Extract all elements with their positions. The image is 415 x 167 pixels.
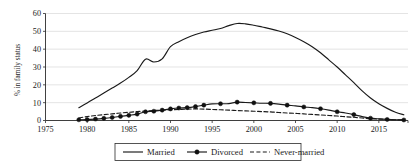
x-tick-label: 2010 <box>329 125 345 134</box>
data-point-marker <box>202 103 206 107</box>
data-point-marker <box>218 102 222 106</box>
y-tick-label: 60 <box>33 9 41 18</box>
data-point-marker <box>118 114 122 118</box>
legend-items: MarriedDivorcedNever-married <box>123 147 325 157</box>
data-point-marker <box>185 106 189 110</box>
y-axis-title: % in family status <box>14 44 22 96</box>
data-point-marker <box>93 117 97 121</box>
data-point-marker <box>77 118 81 122</box>
data-point-marker <box>252 101 256 105</box>
data-point-marker <box>143 110 147 114</box>
y-axis-title-text: % in family status <box>14 44 22 96</box>
data-point-marker <box>402 118 406 122</box>
x-tick-label: 1975 <box>37 125 53 134</box>
legend: MarriedDivorcedNever-married <box>115 144 325 161</box>
married-line <box>79 23 404 114</box>
x-axis <box>46 121 409 124</box>
data-point-marker <box>302 105 306 109</box>
data-point-marker <box>152 109 156 113</box>
y-axis <box>43 14 46 121</box>
legend-marker <box>195 150 199 154</box>
x-tick-label: 1980 <box>79 125 95 134</box>
y-tick-label: 50 <box>33 27 41 36</box>
data-point-marker <box>368 116 372 120</box>
data-point-marker <box>193 105 197 109</box>
data-point-marker <box>85 118 89 122</box>
legend-label: Never-married <box>274 147 325 157</box>
y-tick-label: 10 <box>33 99 41 108</box>
line-chart: % in family status 0102030405060 1975198… <box>0 0 415 167</box>
y-tick-labels: 0102030405060 <box>33 9 41 125</box>
series-married <box>79 23 404 114</box>
chart-figure: % in family status 0102030405060 1975198… <box>0 0 415 167</box>
y-tick-label: 30 <box>33 63 41 72</box>
data-point-marker <box>352 113 356 117</box>
x-tick-label: 1990 <box>162 125 178 134</box>
data-point-marker <box>235 100 239 104</box>
gridlines <box>46 14 409 121</box>
data-point-marker <box>177 106 181 110</box>
data-point-marker <box>102 116 106 120</box>
data-point-marker <box>268 101 272 105</box>
data-point-marker <box>127 113 131 117</box>
x-tick-label: 2015 <box>371 125 387 134</box>
data-point-marker <box>168 107 172 111</box>
x-tick-label: 1985 <box>121 125 137 134</box>
data-point-marker <box>110 115 114 119</box>
data-point-marker <box>318 107 322 111</box>
y-tick-label: 40 <box>33 45 41 54</box>
data-point-marker <box>335 110 339 114</box>
data-point-marker <box>385 117 389 121</box>
x-tick-label: 2000 <box>246 125 262 134</box>
x-tick-label: 1995 <box>204 125 220 134</box>
x-tick-labels: 197519801985199019952000200520102015 <box>37 125 387 134</box>
data-point-marker <box>135 112 139 116</box>
legend-label: Married <box>147 147 175 157</box>
y-tick-label: 20 <box>33 81 41 90</box>
data-point-marker <box>285 103 289 107</box>
x-tick-label: 2005 <box>287 125 303 134</box>
data-point-marker <box>160 108 164 112</box>
legend-label: Divorced <box>211 147 244 157</box>
